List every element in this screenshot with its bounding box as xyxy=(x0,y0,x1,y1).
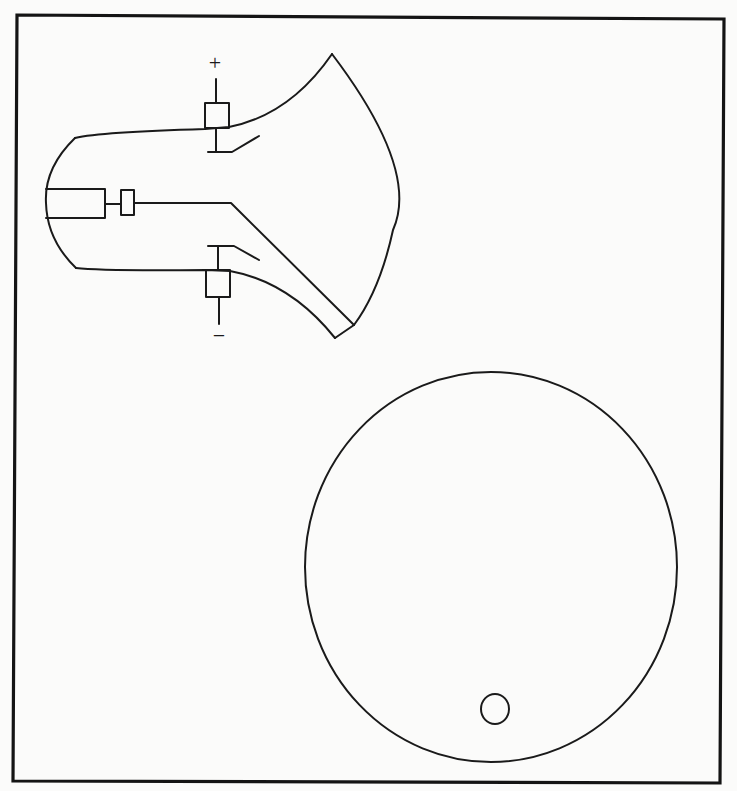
electron-beam xyxy=(134,203,354,325)
minus-sign: − xyxy=(213,325,225,347)
tube-neck-end xyxy=(46,138,76,268)
tube-envelope xyxy=(46,54,399,338)
screen-face xyxy=(332,54,399,338)
upper-terminal-box xyxy=(205,103,229,128)
beam-spot xyxy=(481,694,509,724)
tube-top-edge xyxy=(75,54,332,138)
lower-terminal-box xyxy=(206,270,230,297)
control-grid xyxy=(121,190,134,215)
screen-circle xyxy=(305,372,677,762)
cathode xyxy=(46,189,105,218)
lower-plate xyxy=(208,246,259,260)
plus-sign: + xyxy=(209,52,221,74)
upper-deflection-plate xyxy=(205,79,259,152)
crt-diagram xyxy=(0,0,737,791)
figure-frame xyxy=(13,15,724,783)
lower-deflection-plate xyxy=(206,246,259,324)
